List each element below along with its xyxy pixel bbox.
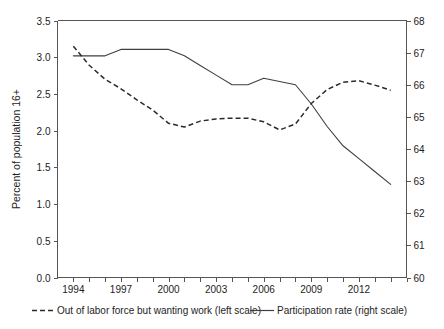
y-right-tick-label: 63 (414, 176, 426, 187)
x-tick-label: 2009 (300, 284, 323, 295)
y-right-tick-label: 68 (414, 16, 426, 27)
y-axis-title: Percent of population 16+ (10, 89, 22, 209)
y-right-tick-label: 62 (414, 208, 426, 219)
y-left-tick-label: 0.0 (37, 273, 51, 284)
y-right-tick-label: 64 (414, 144, 426, 155)
legend-label-out-of-labor-force: Out of labor force but wanting work (lef… (57, 305, 261, 316)
y-left-tick-label: 0.5 (37, 236, 51, 247)
y-left-tick-label: 2.0 (37, 126, 51, 137)
x-tick-label: 1997 (110, 284, 133, 295)
y-axis-right-tick-labels: 606162636465666768 (414, 16, 426, 284)
y-axis-left-ticks (54, 22, 58, 279)
x-tick-label: 2000 (157, 284, 180, 295)
y-left-tick-label: 3.0 (37, 52, 51, 63)
dual-axis-line-chart: 0.00.51.01.52.02.53.03.5 606162636465666… (0, 0, 444, 329)
y-right-tick-label: 67 (414, 48, 426, 59)
x-tick-label: 1994 (62, 284, 85, 295)
y-right-tick-label: 65 (414, 112, 426, 123)
x-tick-label: 2012 (348, 284, 371, 295)
y-right-tick-label: 60 (414, 273, 426, 284)
y-right-tick-label: 61 (414, 240, 426, 251)
chart-legend: Out of labor force but wanting work (lef… (32, 305, 407, 316)
x-tick-label: 2006 (253, 284, 276, 295)
series-group (73, 46, 390, 184)
x-axis-ticks (74, 278, 408, 282)
y-left-tick-label: 1.5 (37, 162, 51, 173)
series-out-of-labor-force (73, 46, 390, 130)
chart-container: 0.00.51.01.52.02.53.03.5 606162636465666… (0, 0, 444, 329)
x-axis-tick-labels: 1994199720002003200620092012 (62, 284, 370, 295)
y-right-tick-label: 66 (414, 80, 426, 91)
y-left-tick-label: 2.5 (37, 89, 51, 100)
series-participation-rate (73, 49, 390, 184)
y-axis-right-ticks (407, 22, 411, 279)
y-axis-left-tick-labels: 0.00.51.01.52.02.53.03.5 (37, 16, 51, 284)
x-tick-label: 2003 (205, 284, 228, 295)
plot-frame (58, 21, 407, 278)
legend-label-participation-rate: Participation rate (right scale) (277, 305, 407, 316)
y-left-tick-label: 1.0 (37, 199, 51, 210)
y-left-tick-label: 3.5 (37, 16, 51, 27)
